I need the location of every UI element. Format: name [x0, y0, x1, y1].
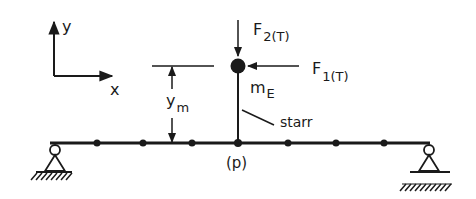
beam-node	[189, 140, 196, 147]
ground-hatch-icon	[400, 184, 452, 191]
support-triangle	[419, 155, 439, 171]
force-f2-label: F2(T)	[253, 20, 290, 44]
x-axis-label: x	[110, 80, 119, 99]
coordinate-axes: y x	[54, 17, 119, 99]
beam: (p)	[50, 139, 430, 172]
mast-label: starr	[280, 114, 313, 130]
beam-node	[94, 140, 101, 147]
forces: F2(T) F1(T)	[238, 20, 349, 84]
dimension-label: ym	[166, 91, 189, 115]
beam-node	[333, 140, 340, 147]
beam-node-p	[234, 139, 242, 147]
structural-diagram: y x ym mE starr F2(T) F1(T)	[0, 0, 476, 199]
ground-hatch-icon	[31, 173, 72, 180]
y-axis-label: y	[62, 17, 71, 36]
mass-point	[231, 59, 246, 74]
beam-node	[381, 140, 388, 147]
rigid-mast: mE starr	[231, 59, 313, 144]
leader-line	[242, 110, 274, 125]
beam-node	[285, 140, 292, 147]
force-f1-label: F1(T)	[312, 59, 349, 84]
right-support	[400, 145, 452, 191]
height-dimension: ym	[152, 66, 214, 142]
mass-label: mE	[250, 78, 275, 101]
node-p-label: (p)	[226, 154, 247, 172]
support-triangle	[45, 155, 65, 171]
left-support	[31, 145, 72, 180]
beam-node	[140, 140, 147, 147]
